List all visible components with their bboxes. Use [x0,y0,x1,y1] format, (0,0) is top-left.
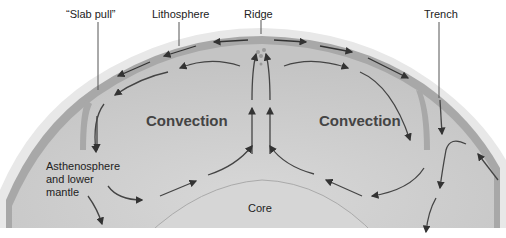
label-asthenosphere-2: and lower [46,173,94,185]
label-asthenosphere-1: Asthenosphere [46,160,120,172]
label-slab-pull: “Slab pull” [66,8,116,20]
label-convection-left: Convection [146,112,228,129]
label-lithosphere: Lithosphere [152,8,210,20]
label-asthenosphere-3: mantle [46,186,79,198]
label-ridge: Ridge [244,8,273,20]
label-convection-right: Convection [319,112,401,129]
convection-diagram: “Slab pull” Lithosphere Ridge Trench Con… [0,0,506,238]
label-core: Core [248,202,272,214]
label-trench: Trench [424,8,458,20]
